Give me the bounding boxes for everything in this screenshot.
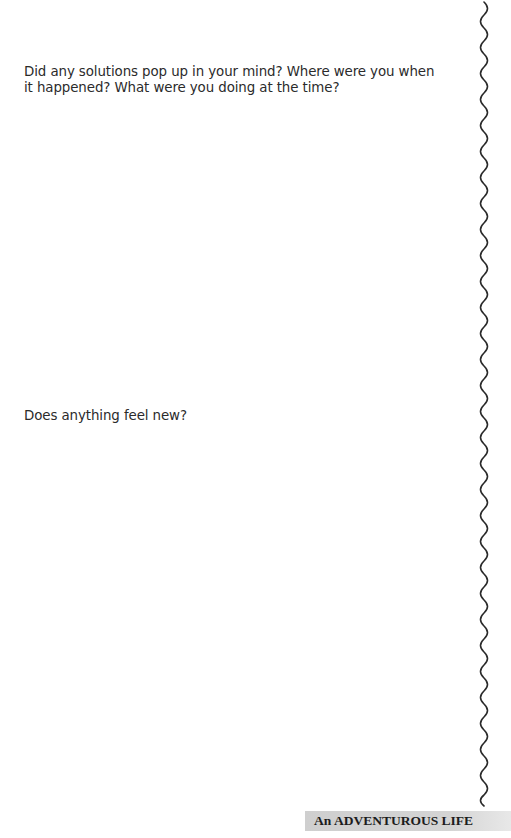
wavy-margin-line-icon — [478, 0, 498, 808]
running-footer: An ADVENTUROUS LIFE — [305, 811, 511, 831]
journal-prompt-new: Does anything feel new? — [24, 408, 444, 424]
journal-prompt-solutions: Did any solutions pop up in your mind? W… — [24, 64, 444, 96]
running-title: An ADVENTUROUS LIFE — [314, 813, 473, 828]
